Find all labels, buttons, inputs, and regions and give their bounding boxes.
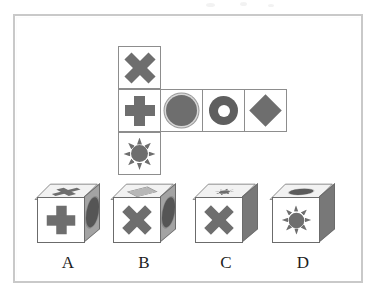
answer-label-b: B — [111, 253, 177, 273]
x-cross-icon — [51, 188, 82, 196]
x-cross-icon — [205, 206, 234, 235]
plus-cross-icon — [47, 206, 76, 235]
answer-option-b[interactable]: B — [111, 183, 187, 245]
cube-c-front-face — [195, 197, 243, 243]
x-cross-icon — [123, 206, 152, 235]
cube-a — [35, 183, 101, 245]
cube-a-front-face — [37, 197, 85, 243]
sun-starburst-icon — [280, 204, 311, 235]
answer-option-d[interactable]: D — [270, 183, 346, 245]
cube-b-front-face — [113, 197, 161, 243]
answer-label-d: D — [270, 253, 336, 273]
oval-icon — [162, 193, 175, 232]
sun-starburst-icon — [210, 188, 238, 195]
filled-oval-icon — [286, 189, 316, 195]
answer-option-c[interactable]: C — [193, 183, 269, 245]
cube-d — [270, 183, 336, 245]
diamond-icon — [128, 187, 157, 197]
scan-artifact — [268, 4, 274, 7]
cube-c — [193, 183, 259, 245]
cube-b — [111, 183, 177, 245]
answer-label-a: A — [35, 253, 101, 273]
scan-artifact — [206, 3, 215, 7]
cube-d-front-face — [272, 197, 320, 243]
answer-option-a[interactable]: A — [35, 183, 111, 245]
answer-options: A B — [15, 16, 365, 285]
puzzle-frame: A B — [13, 14, 363, 283]
scan-artifact — [240, 2, 247, 6]
answer-label-c: C — [193, 253, 259, 273]
oval-icon — [86, 193, 99, 232]
